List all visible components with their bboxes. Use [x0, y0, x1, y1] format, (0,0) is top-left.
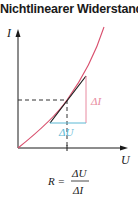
delta-i-label: ΔI — [90, 95, 102, 107]
characteristic-curve-diagram: I U ΔI ΔU R = ΔU ΔI — [0, 0, 138, 199]
x-axis-label: U — [121, 153, 131, 167]
delta-u-label: ΔU — [58, 126, 74, 138]
formula-lhs: R = — [47, 175, 65, 187]
formula-denominator: ΔI — [72, 184, 84, 196]
y-axis-arrow-icon — [16, 29, 21, 37]
formula-numerator: ΔU — [71, 167, 87, 179]
y-axis-label: I — [6, 26, 12, 40]
x-axis-arrow-icon — [120, 146, 128, 151]
